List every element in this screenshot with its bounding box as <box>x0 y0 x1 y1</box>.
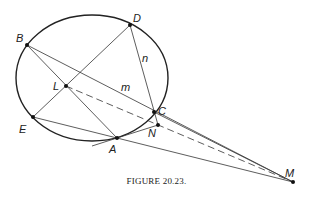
label-l: L <box>53 80 59 92</box>
label-line-m: m <box>121 81 130 93</box>
label-a: A <box>108 143 116 155</box>
line-d-e <box>33 25 130 117</box>
point-l <box>64 84 68 88</box>
label-n: N <box>148 127 156 139</box>
point-b <box>25 43 29 47</box>
line-n-dc <box>130 25 158 125</box>
label-line-n: n <box>142 52 148 64</box>
label-c: C <box>158 105 166 117</box>
label-d: D <box>133 12 141 24</box>
point-c <box>152 110 156 114</box>
point-d <box>128 23 132 27</box>
point-e <box>31 115 35 119</box>
figure-caption: FIGURE 20.23. <box>0 176 313 186</box>
point-n <box>156 123 160 127</box>
point-a <box>115 136 119 140</box>
label-b: B <box>16 32 23 44</box>
line-c-m <box>154 112 293 182</box>
label-e: E <box>19 123 27 135</box>
geometry-figure: B D L C N E A M m n <box>0 0 313 201</box>
